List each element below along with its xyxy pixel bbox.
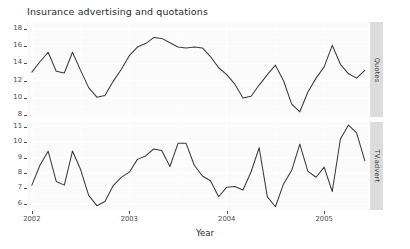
facet-panel-quotes [27, 22, 368, 117]
y-axis-tick-mark [24, 81, 27, 82]
facet-strip-label-quotes: Quotes [373, 57, 381, 82]
y-axis-tick-mark [24, 63, 27, 64]
x-axis-title: Year [0, 228, 410, 238]
x-axis-tick-mark [129, 211, 130, 214]
y-axis-tick-label: 6 [18, 200, 22, 207]
chart-root: Insurance advertising and quotations Quo… [0, 0, 410, 249]
facet-plot-area [27, 22, 368, 117]
facet-strip-label-tvadvert: TV.advert [373, 149, 381, 182]
y-axis-tick-label: 18 [13, 25, 22, 32]
y-axis-tick-label: 9 [18, 154, 22, 161]
y-axis-tick-label: 12 [13, 77, 22, 84]
facet-plot-area [27, 122, 368, 210]
y-axis-tick-mark [24, 188, 27, 189]
y-axis-tick-mark [24, 46, 27, 47]
y-axis-tick-label: 8 [18, 111, 22, 118]
x-axis-tick-mark [32, 211, 33, 214]
y-axis-tick-label: 14 [13, 59, 22, 66]
x-axis-tick-mark [324, 211, 325, 214]
x-axis-tick-label: 2002 [18, 215, 46, 223]
y-axis-tick-mark [24, 127, 27, 128]
y-axis-tick-label: 10 [13, 94, 22, 101]
y-axis-tick-mark [24, 158, 27, 159]
y-axis-tick-mark [24, 142, 27, 143]
facet-strip-tvadvert: TV.advert [370, 122, 383, 210]
y-axis-tick-mark [24, 98, 27, 99]
x-axis-tick-label: 2003 [115, 215, 143, 223]
y-axis-tick-label: 7 [18, 184, 22, 191]
chart-title: Insurance advertising and quotations [27, 6, 208, 17]
x-axis-tick-label: 2005 [310, 215, 338, 223]
y-axis-tick-label: 16 [13, 42, 22, 49]
y-axis-tick-label: 10 [13, 138, 22, 145]
facet-strip-quotes: Quotes [370, 22, 383, 117]
y-axis-tick-mark [24, 173, 27, 174]
y-axis-tick-label: 11 [13, 123, 22, 130]
y-axis-tick-mark [24, 204, 27, 205]
x-axis-tick-label: 2004 [213, 215, 241, 223]
facet-panel-tvadvert [27, 122, 368, 210]
y-axis-tick-label: 8 [18, 169, 22, 176]
data-series-line [32, 125, 365, 207]
y-axis-tick-mark [24, 115, 27, 116]
data-series-line [32, 38, 365, 112]
y-axis-tick-mark [24, 29, 27, 30]
x-axis-tick-mark [227, 211, 228, 214]
